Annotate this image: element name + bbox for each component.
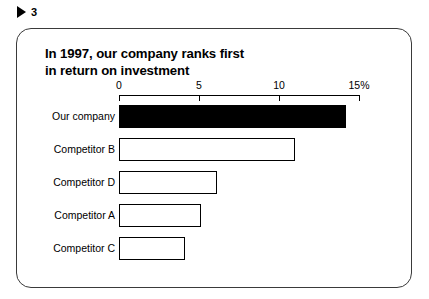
bar-category-label: Our company [52, 105, 115, 128]
bar-competitor-a [119, 204, 201, 227]
bar-our-company [119, 105, 346, 128]
page-marker: 3 [17, 5, 37, 19]
bar-row: Competitor A [17, 204, 413, 227]
bar-row: Competitor C [17, 237, 413, 260]
bar-row: Our company [17, 105, 413, 128]
bar-group: Our companyCompetitor BCompetitor DCompe… [17, 29, 413, 289]
bar-category-label: Competitor D [53, 171, 115, 194]
bar-competitor-b [119, 138, 295, 161]
bar-competitor-c [119, 237, 185, 260]
slide-frame: In 1997, our company ranks first in retu… [16, 28, 412, 288]
bar-row: Competitor B [17, 138, 413, 161]
play-triangle-icon [17, 6, 26, 18]
page-number: 3 [31, 7, 37, 18]
bar-category-label: Competitor B [54, 138, 115, 161]
bar-category-label: Competitor A [54, 204, 115, 227]
bar-row: Competitor D [17, 171, 413, 194]
bar-chart: 051015% Our companyCompetitor BCompetito… [17, 29, 413, 289]
bar-category-label: Competitor C [53, 237, 115, 260]
bar-competitor-d [119, 171, 217, 194]
